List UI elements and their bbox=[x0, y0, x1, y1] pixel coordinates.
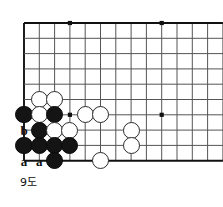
point-label-b[interactable]: b bbox=[16, 124, 32, 137]
star-point bbox=[68, 113, 72, 117]
go-diagram-screenshot: baa 9도 bbox=[0, 0, 223, 207]
point-label-a[interactable]: a bbox=[16, 155, 32, 168]
white-stone[interactable] bbox=[123, 137, 140, 154]
star-point bbox=[160, 21, 164, 25]
star-point bbox=[160, 113, 164, 117]
point-label-a[interactable]: a bbox=[31, 155, 47, 168]
star-point bbox=[68, 21, 72, 25]
diagram-caption: 9도 bbox=[20, 173, 37, 189]
black-stone[interactable] bbox=[15, 106, 32, 123]
